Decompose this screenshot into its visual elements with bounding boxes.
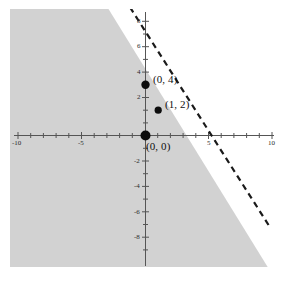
coordinate-plane xyxy=(0,0,285,282)
shaded-region xyxy=(10,9,272,274)
y-tick-label--2: -2 xyxy=(134,157,140,165)
point-0-0 xyxy=(141,131,151,141)
point-0-4 xyxy=(141,81,149,89)
x-tick-label-5: 5 xyxy=(207,139,211,147)
y-tick-label--4: -4 xyxy=(134,182,140,190)
point-label-0-4: (0, 4) xyxy=(153,73,177,85)
x-tick-label--10: -10 xyxy=(12,139,21,147)
x-tick-label-10: 10 xyxy=(268,139,275,147)
point-1-2 xyxy=(155,107,162,114)
y-tick-label-4: 4 xyxy=(137,68,141,76)
x-tick-label--5: -5 xyxy=(78,139,84,147)
y-tick-label-6: 6 xyxy=(137,42,141,50)
point-label-1-2: (1, 2) xyxy=(165,98,189,110)
point-label-0-0: (0, 0) xyxy=(146,140,170,152)
y-tick-label--6: -6 xyxy=(134,208,140,216)
inequality-graph-figure: -10 -5 5 10 8 6 4 2 -2 -4 -6 -8 (0, 4) (… xyxy=(0,0,285,282)
y-tick-label-2: 2 xyxy=(137,93,141,101)
y-tick-label--8: -8 xyxy=(134,233,140,241)
y-tick-label-8: 8 xyxy=(137,17,141,25)
